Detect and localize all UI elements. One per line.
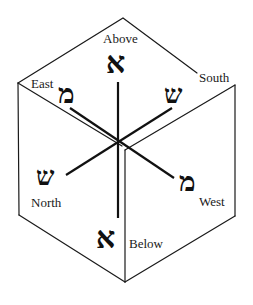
letter-aleph-below: א: [96, 220, 115, 255]
letter-mem-east: מ: [58, 77, 75, 110]
label-above: Above: [103, 31, 138, 46]
letter-shin-south: ש: [164, 79, 183, 109]
label-south: South: [199, 70, 230, 85]
direction-labels: Above East South North West Below: [31, 31, 230, 251]
hebrew-letters: א מ ש ש מ א: [36, 45, 196, 255]
cube-edge-left: [18, 83, 19, 215]
axis-east-west: [70, 108, 174, 178]
label-west: West: [199, 194, 225, 209]
cube-diagram: Above East South North West Below א מ ש …: [0, 0, 253, 305]
axes: [66, 82, 174, 218]
cube-outline: [18, 18, 235, 282]
letter-aleph-above: א: [106, 45, 125, 80]
letter-shin-north: ש: [36, 161, 55, 191]
letter-mem-west: מ: [179, 165, 196, 198]
label-east: East: [31, 76, 54, 91]
label-below: Below: [129, 236, 164, 251]
label-north: North: [31, 195, 62, 210]
